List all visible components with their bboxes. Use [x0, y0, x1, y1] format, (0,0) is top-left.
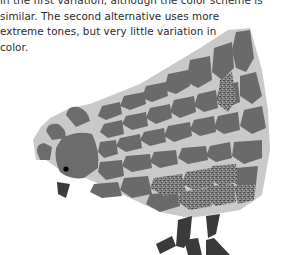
beak [57, 182, 70, 198]
mosaic-chicken-illustration [0, 0, 293, 255]
legs [156, 214, 230, 255]
eye [63, 166, 68, 171]
head [56, 133, 99, 179]
